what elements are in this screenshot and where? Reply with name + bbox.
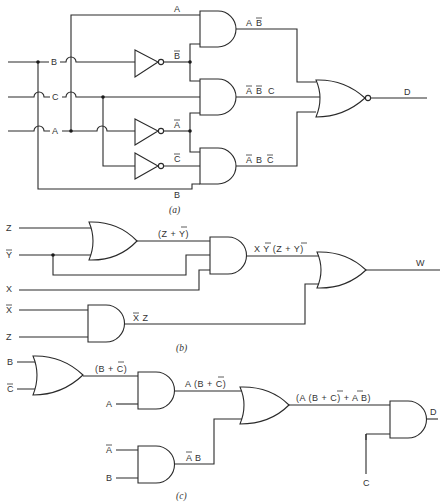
wire-b-input <box>8 57 120 62</box>
or-gate-2 <box>317 252 366 288</box>
junction-dot <box>188 129 192 133</box>
junction-dot <box>101 95 105 99</box>
input-a-label: A <box>52 126 59 136</box>
wire-y-bar-branch <box>53 255 210 275</box>
svg-text:C: C <box>268 86 275 96</box>
svg-text:B: B <box>256 86 263 96</box>
and-gate-1 <box>200 11 236 47</box>
svg-text:(A (B + C) + A B): (A (B + C) + A B) <box>296 393 371 403</box>
input-a-label: A <box>106 399 113 409</box>
output-d-label: D <box>404 87 411 97</box>
svg-text:A (B + C): A (B + C) <box>185 379 226 389</box>
input-b-label: B <box>7 357 14 367</box>
input-c-label: C <box>363 478 370 488</box>
b-bar-label: B <box>174 51 181 61</box>
or-gate-1 <box>33 356 83 395</box>
junction-dot <box>36 60 40 64</box>
caption-a: (a) <box>169 205 180 216</box>
b-bottom-label: B <box>174 190 181 200</box>
and-gate-1 <box>210 237 247 274</box>
or1-out-label: (Z + Y) <box>158 227 189 239</box>
and-gate-3 <box>200 148 236 184</box>
svg-text:X Y (Z + Y): X Y (Z + Y) <box>254 244 304 254</box>
nor-gate <box>316 80 365 117</box>
svg-text:A: A <box>246 86 253 96</box>
figure-a: B C A B A C A <box>8 4 427 216</box>
and2-out-label: A B <box>186 452 202 463</box>
and1-out-label: A (B + C) <box>185 377 226 389</box>
input-c-label: C <box>52 92 59 102</box>
and-gate-1 <box>138 372 175 409</box>
svg-text:B: B <box>256 155 263 165</box>
output-d-label: D <box>430 407 437 417</box>
svg-text:(B + C): (B + C) <box>95 364 127 374</box>
input-b2-label: B <box>106 473 113 483</box>
junction-dot <box>69 129 73 133</box>
input-b-label: B <box>51 57 58 67</box>
input-y-bar-label: Y <box>6 250 13 260</box>
svg-text:A: A <box>246 155 253 165</box>
junction-dot <box>188 60 192 64</box>
input-x-label: X <box>6 284 13 294</box>
output-w-label: W <box>416 258 425 268</box>
term-2-label: A B C <box>246 86 275 96</box>
a-bar-label: A <box>174 120 181 130</box>
svg-text:(Z + Y): (Z + Y) <box>158 229 189 239</box>
svg-text:X Z: X Z <box>133 313 149 323</box>
and-gate-2 <box>138 446 175 483</box>
c-bar-label: C <box>174 154 181 164</box>
and-gate-2 <box>200 79 236 115</box>
or-gate-2 <box>240 387 289 424</box>
logic-diagram: B C A B A C A <box>0 0 447 504</box>
figure-b: Z Y X X Z (Z + Y) X Y (Z + Y) X <box>6 222 440 354</box>
a-top-label: A <box>174 4 181 14</box>
nor-bubble <box>365 95 370 100</box>
wire-x <box>19 270 210 290</box>
input-c-bar-label: C <box>7 384 14 394</box>
wire-term-1 <box>236 29 316 82</box>
wire-and2-out <box>174 419 243 464</box>
inverter-c <box>135 153 200 179</box>
and1-out-label: X Y (Z + Y) <box>254 243 307 254</box>
and-gate-2 <box>88 305 125 342</box>
term-3-label: A B C <box>246 155 274 165</box>
svg-text:A B: A B <box>186 453 202 463</box>
term-1-label: A B <box>246 18 263 28</box>
or2-out-label: (A (B + C) + A B) <box>296 391 371 403</box>
input-z-label: Z <box>6 223 12 233</box>
inverter-b <box>135 50 190 77</box>
input-x-bar-label: X <box>6 305 13 315</box>
inverter-a <box>135 119 190 145</box>
or-gate-1 <box>89 222 137 260</box>
and2-out-label: X Z <box>133 313 149 323</box>
junction-dot <box>51 253 55 257</box>
figure-c: B C (B + C) A A (B + C) A B A B (A ( <box>7 356 438 502</box>
svg-text:A: A <box>246 18 253 28</box>
caption-b: (b) <box>176 343 187 354</box>
and-gate-3 <box>390 401 427 438</box>
svg-text:C: C <box>267 155 274 165</box>
or1-out-label: (B + C) <box>95 362 127 374</box>
input-z2-label: Z <box>6 332 12 342</box>
svg-text:B: B <box>256 18 263 28</box>
input-a-bar-label: A <box>106 445 113 455</box>
caption-c: (c) <box>176 491 187 502</box>
